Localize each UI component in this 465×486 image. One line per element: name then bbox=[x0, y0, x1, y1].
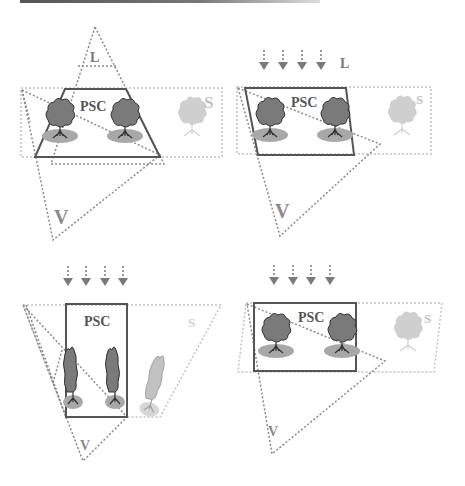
label-psc: PSC bbox=[84, 314, 110, 329]
label-scene: S bbox=[204, 93, 213, 112]
label-light: L bbox=[90, 50, 99, 65]
label-psc: PSC bbox=[291, 95, 317, 110]
label-view: V bbox=[80, 438, 90, 453]
label-light: L bbox=[340, 56, 349, 71]
label-view: V bbox=[54, 206, 69, 228]
panel-bottom-right: PSC S V bbox=[238, 265, 442, 454]
panel-bottom-left: PSC S V bbox=[23, 266, 221, 461]
label-scene: S bbox=[424, 311, 431, 326]
label-view: V bbox=[268, 424, 278, 439]
label-scene: S bbox=[416, 92, 423, 107]
panel-top-left: PSC L S V bbox=[21, 27, 222, 240]
label-scene: S bbox=[188, 315, 195, 330]
light-frustum bbox=[51, 27, 164, 164]
diagram-figure: PSC L S V PSC L S V bbox=[0, 0, 465, 486]
label-psc: PSC bbox=[80, 99, 106, 114]
label-psc: PSC bbox=[298, 310, 324, 325]
label-view: V bbox=[275, 200, 290, 222]
panel-top-right: PSC L S V bbox=[237, 50, 431, 236]
